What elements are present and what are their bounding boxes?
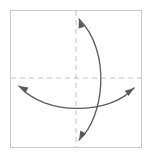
diagram-canvas: Two crossing double-headed curved arrows… <box>0 0 148 158</box>
diagram-root: Two crossing double-headed curved arrows… <box>0 0 148 158</box>
canvas-background <box>0 0 148 158</box>
